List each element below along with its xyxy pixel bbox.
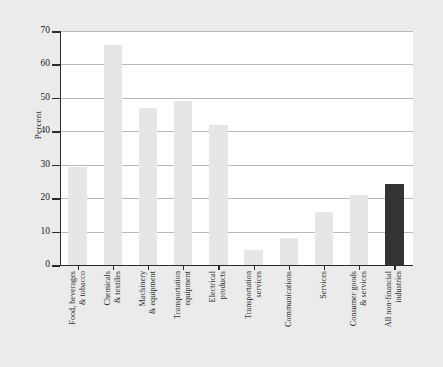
- x-axis-label-slot: Machinery& equipment: [130, 271, 165, 367]
- y-axis-tick-label: 0: [20, 260, 50, 270]
- x-axis-category-label: Electricalproducts: [209, 271, 228, 302]
- y-axis-tick: [52, 165, 60, 167]
- x-axis-label-slot: Transportationservices: [236, 271, 271, 367]
- x-axis-label-slot: Services: [306, 271, 341, 367]
- y-axis-tick: [52, 265, 60, 267]
- x-axis-category-label: Consumer goods& services: [350, 271, 369, 326]
- x-axis-tick: [359, 266, 360, 270]
- bar: [280, 238, 298, 265]
- bar: [139, 108, 157, 265]
- x-axis-label-slot: All non-financialindustries: [377, 271, 412, 367]
- x-axis-category-label: Chemicals& textiles: [103, 271, 122, 306]
- y-axis-tick-label: 40: [20, 126, 50, 136]
- bar: [315, 212, 333, 265]
- x-axis-category-label: Transportationequipment: [174, 271, 193, 319]
- x-axis-tick: [78, 266, 79, 270]
- bar: [174, 101, 192, 265]
- y-axis-tick: [52, 64, 60, 66]
- x-axis-category-label: All non-financialindustries: [385, 271, 404, 327]
- y-axis-tick-label: 60: [20, 59, 50, 69]
- x-axis-category-label: Services: [319, 271, 329, 299]
- bar-chart-figure: Percent 010203040506070 Food, beverages&…: [0, 0, 443, 367]
- y-axis-tick-label: 70: [20, 26, 50, 36]
- bar: [104, 45, 122, 265]
- y-axis-tick: [52, 31, 60, 33]
- x-axis-label-slot: Consumer goods& services: [342, 271, 377, 367]
- x-axis-label-slot: Electricalproducts: [201, 271, 236, 367]
- y-axis-tick: [52, 232, 60, 234]
- x-axis-label-slot: Food, beverages& tobacco: [60, 271, 95, 367]
- x-axis-label-slot: Transportationequipment: [166, 271, 201, 367]
- x-axis-tick: [289, 266, 290, 270]
- y-axis-tick-labels: 010203040506070: [16, 0, 50, 367]
- x-axis-tick: [394, 266, 395, 270]
- x-axis-category-label: Machinery& equipment: [138, 271, 157, 314]
- x-axis-tick: [218, 266, 219, 270]
- bar: [68, 167, 86, 265]
- bar-series: [60, 31, 412, 265]
- x-axis-tick: [254, 266, 255, 270]
- x-axis-category-labels: Food, beverages& tobaccoChemicals& texti…: [60, 271, 412, 367]
- y-axis-tick-label: 30: [20, 160, 50, 170]
- x-axis-label-slot: Chemicals& textiles: [95, 271, 130, 367]
- x-axis-tick: [113, 266, 114, 270]
- x-axis-category-label: Food, beverages& tobacco: [68, 271, 87, 325]
- y-axis-tick-label: 50: [20, 93, 50, 103]
- y-axis-tick: [52, 131, 60, 133]
- x-axis-label-slot: Communications: [271, 271, 306, 367]
- bar: [350, 195, 368, 265]
- x-axis-tick: [324, 266, 325, 270]
- y-axis-tick: [52, 198, 60, 200]
- x-axis-category-label: Communications: [284, 271, 294, 327]
- bar: [385, 184, 403, 265]
- bar: [209, 125, 227, 265]
- x-axis-tick: [148, 266, 149, 270]
- y-axis-tick-label: 20: [20, 193, 50, 203]
- bar: [244, 250, 262, 265]
- x-axis-tick: [183, 266, 184, 270]
- y-axis-tick: [52, 98, 60, 100]
- x-axis-category-label: Transportationservices: [244, 271, 263, 319]
- y-axis-tick-label: 10: [20, 227, 50, 237]
